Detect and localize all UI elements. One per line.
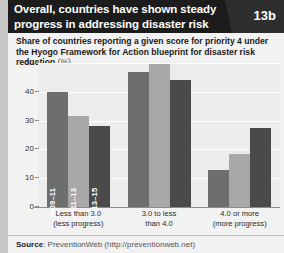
left-margin-strip [0, 0, 8, 253]
category-label-line: 3.0 to less [119, 209, 200, 219]
y-tick-10: 10 [10, 173, 34, 182]
figure-13b: Overall, countries have shown steady pro… [0, 0, 284, 253]
bars: 2009–112011–132013–15 [38, 63, 119, 207]
bars [199, 63, 280, 207]
source-text: : PreventionWeb (http://preventionweb.ne… [43, 240, 195, 249]
category-label-1: Less than 3.0(less progress) [38, 209, 119, 233]
chart-header: Overall, countries have shown steady pro… [8, 0, 284, 33]
bar-2011-13-g3 [229, 154, 250, 207]
source-note: Source: PreventionWeb (http://prevention… [16, 240, 195, 249]
category-label-line: (less progress) [38, 219, 119, 229]
bar-group-1: 2009–112011–132013–15 [38, 63, 119, 207]
figure-number-badge: 13b [232, 0, 284, 33]
y-tick-40: 40 [10, 87, 34, 96]
bar-2009-11-g3 [208, 170, 229, 207]
category-label-line: than 4.0 [119, 219, 200, 229]
bar-group-3 [199, 63, 280, 207]
bar-2009-11-g2 [128, 72, 149, 207]
bar-2009-11-g1: 2009–11 [47, 92, 68, 207]
plot-area: 01020304050 2009–112011–132013–15 [38, 63, 280, 207]
category-label-2: 3.0 to lessthan 4.0 [119, 209, 200, 233]
bar-groups: 2009–112011–132013–15 [38, 63, 280, 207]
bar-2011-13-g2 [149, 64, 170, 207]
y-tick-0: 0 [10, 202, 34, 211]
figure-number-text: 13b [254, 8, 276, 23]
category-label-line: 4.0 or more [199, 209, 280, 219]
x-axis-category-labels: Less than 3.0(less progress)3.0 to lesst… [38, 209, 280, 233]
bar-2011-13-g1: 2011–13 [68, 116, 89, 207]
y-tick-30: 30 [10, 116, 34, 125]
bar-group-2 [119, 63, 200, 207]
bar-2013-15-g2 [170, 80, 191, 207]
y-tick-50: 50 [10, 58, 34, 67]
category-label-line: Less than 3.0 [38, 209, 119, 219]
source-label: Source [16, 240, 43, 249]
page-title: Overall, countries have shown steady pro… [14, 2, 224, 32]
y-tick-20: 20 [10, 144, 34, 153]
category-label-line: (more progress) [199, 219, 280, 229]
chart-footer: Source: PreventionWeb (http://prevention… [8, 235, 284, 253]
chart-panel: Share of countries reporting a given sco… [8, 33, 284, 235]
bars [119, 63, 200, 207]
category-label-3: 4.0 or more(more progress) [199, 209, 280, 233]
bar-2013-15-g3 [250, 128, 271, 207]
bar-2013-15-g1: 2013–15 [89, 126, 110, 207]
